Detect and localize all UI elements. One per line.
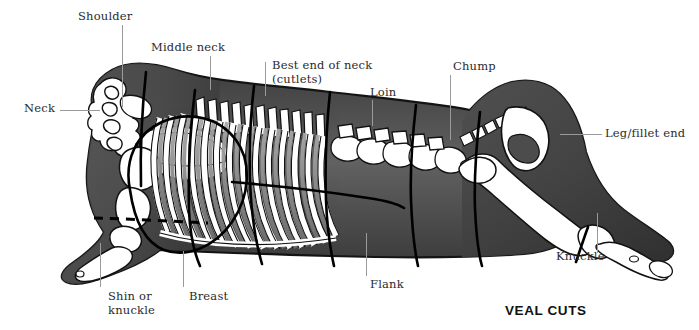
leader-flank xyxy=(366,233,367,276)
leader-shoulder xyxy=(122,25,123,107)
leader-neck xyxy=(60,110,100,111)
veal-carcass-illustration xyxy=(0,0,699,330)
leader-best-end-of-neck xyxy=(265,62,266,96)
label-knuckle: Knuckle xyxy=(556,250,605,264)
label-best-end-of-neck: Best end of neck (cutlets) xyxy=(272,59,372,86)
label-breast: Breast xyxy=(189,290,228,304)
label-leg-fillet-end: Leg/fillet end xyxy=(605,127,685,141)
label-chump: Chump xyxy=(453,60,496,74)
label-loin: Loin xyxy=(370,86,396,100)
leader-shin-or-knuckle xyxy=(100,243,101,287)
veal-cuts-diagram-page: Shoulder Neck Middle neck Best end of ne… xyxy=(0,0,699,330)
leader-loin xyxy=(372,100,373,126)
label-middle-neck: Middle neck xyxy=(151,41,225,55)
leader-knuckle xyxy=(597,213,598,253)
label-shin-or-knuckle: Shin or knuckle xyxy=(108,290,155,317)
leader-leg-fillet-end xyxy=(560,134,602,135)
label-neck: Neck xyxy=(24,102,55,116)
diagram-title: VEAL CUTS xyxy=(505,303,587,318)
leader-chump xyxy=(450,75,451,140)
leader-middle-neck xyxy=(210,56,211,90)
label-flank: Flank xyxy=(370,278,404,292)
leader-breast xyxy=(183,251,184,287)
label-shoulder: Shoulder xyxy=(78,10,133,24)
